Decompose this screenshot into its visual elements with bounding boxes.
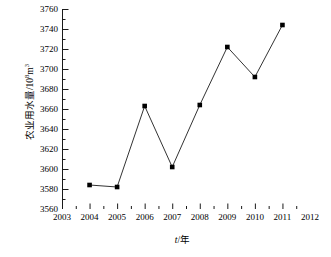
data-line-series	[90, 25, 283, 187]
x-axis-title-unit: /年	[178, 235, 191, 245]
y-tick-label-3580: 3580	[24, 185, 58, 194]
data-point-2010	[253, 75, 258, 80]
y-tick-label-3620: 3620	[24, 145, 58, 154]
x-axis-ticks	[63, 204, 311, 210]
y-tick-label-3680: 3680	[24, 85, 58, 94]
y-tick-label-3720: 3720	[24, 45, 58, 54]
axis-spines	[63, 9, 311, 209]
y-tick-label-3740: 3740	[24, 25, 58, 34]
y-tick-label-3700: 3700	[24, 65, 58, 74]
y-tick-label-3600: 3600	[24, 165, 58, 174]
x-tick-label-2012: 2012	[290, 211, 330, 223]
y-tick-label-3760: 3760	[24, 5, 58, 14]
data-point-2004	[87, 183, 92, 188]
plot-svg	[62, 9, 310, 209]
chart-figure: 农业用水量/108m3 3560358036003620364036603680…	[0, 0, 331, 257]
data-point-2009	[225, 45, 230, 50]
data-point-2008	[197, 103, 202, 108]
y-tick-label-3640: 3640	[24, 125, 58, 134]
plot-area	[62, 9, 310, 209]
x-axis-title: t/年	[55, 232, 310, 246]
data-point-markers	[87, 23, 284, 190]
y-axis-tick-labels: 3560358036003620364036603680370037203740…	[22, 0, 58, 220]
data-point-2007	[170, 165, 175, 170]
y-tick-label-3660: 3660	[24, 105, 58, 114]
data-point-2006	[142, 104, 147, 109]
y-axis-ticks	[63, 10, 69, 210]
data-point-2005	[115, 185, 120, 190]
data-point-2011	[280, 23, 285, 28]
x-axis-tick-labels: 2003200420052006200720082009201020112012	[0, 211, 331, 225]
